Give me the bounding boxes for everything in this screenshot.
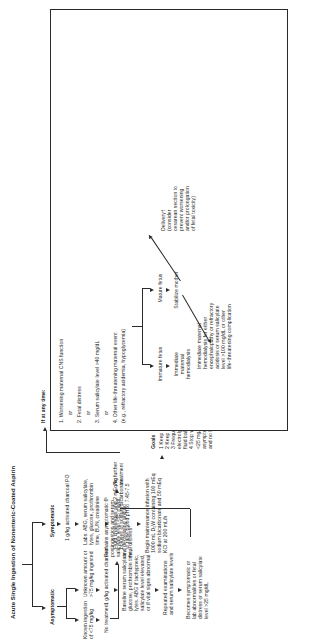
asym-no-treatment-arrow	[96, 618, 100, 622]
asym-known-low-label: Known ingestion of <75 mg/kg	[82, 595, 94, 639]
page-title: Acute Single Ingestion of Nonenteric-Coa…	[10, 419, 16, 619]
hemodialysis-detail-label: Immediate maternal hemodialysis for eith…	[196, 273, 233, 369]
immature-arrow	[150, 364, 154, 368]
mature-drop	[142, 288, 150, 289]
sym-labs-arrow	[75, 522, 79, 526]
asym-unknown-drop	[66, 588, 75, 589]
anytime-criteria-2: 2. Fetal distress	[76, 273, 82, 423]
anytime-or-1: or	[67, 403, 73, 423]
asym-branch-arrow	[42, 606, 46, 610]
asym-sub-bar	[66, 589, 67, 619]
asym-becomes-symptomatic-label: Becomes symptomatic or lab abnormalities…	[185, 537, 209, 619]
immature-fetus-label: Immature fetus	[157, 339, 163, 389]
immediate-hemo-arrow	[166, 364, 170, 368]
asym-repeated-arrow	[155, 588, 159, 592]
asym-baseline-arrow	[114, 588, 118, 592]
sym-goals-arrow	[160, 455, 164, 459]
sym-branch-arrow	[42, 522, 46, 526]
sym-maintenance-infusion-label: Begin maintenance infusion with 1000 mL …	[144, 463, 168, 553]
immature-drop	[142, 364, 150, 365]
asym-unknown-arrow	[75, 588, 79, 592]
anytime-criteria-1: 1. Worsening maternal CNS function	[58, 273, 64, 423]
immediate-maternal-hemodialysis-label: Immediate maternal hemodialysis	[173, 341, 191, 387]
asym-sub-stem	[57, 606, 66, 607]
anytime-feed-arrow	[43, 427, 47, 431]
sym-charcoal-arrow	[57, 522, 61, 526]
asym-no-treat-connector-drop	[110, 618, 118, 619]
asym-known-drop	[66, 618, 75, 619]
asym-charcoal-arrow	[96, 588, 100, 592]
sym-fluid-challenges-label: Fluid challenges and 2 mEq/kg boluses of…	[112, 467, 130, 549]
becomes-sym-to-sym-line	[190, 509, 191, 537]
stabilize-mother-arrow	[166, 288, 170, 292]
asym-charcoal-label-v: 1 g/kg activated charcoal	[103, 543, 109, 605]
asym-branch-drop	[32, 606, 42, 607]
sym-fluid-arrow	[105, 522, 109, 526]
fetus-split-bar	[142, 289, 143, 365]
fetus-split-stem	[132, 326, 142, 327]
branch-label-asymptomatic: Asymptomatic	[49, 585, 55, 629]
asym-no-treat-connector	[118, 565, 119, 619]
root-stem	[22, 564, 32, 565]
anytime-criteria-4: 4. Other life-threatening maternal event	[112, 263, 118, 423]
asym-unknown-high-label: Unknown amount or >75 mg/kg ingested	[82, 541, 94, 597]
sym-labs-label: Labs: ABG, serum salicylate, lytes, gluc…	[82, 471, 100, 545]
mature-arrow	[150, 288, 154, 292]
asym-remains-arrow	[115, 561, 119, 565]
branch-label-symptomatic: Symptomatic	[49, 499, 55, 543]
asym-known-arrow	[75, 618, 79, 622]
sym-charcoal-po-label: 1 g/kg activated charcoal PO	[64, 467, 70, 541]
anytime-feed-up	[46, 452, 120, 453]
anytime-header: If at any time:	[40, 373, 46, 423]
root-split-bar	[32, 523, 33, 607]
anytime-or-2: or	[85, 403, 91, 423]
mature-fetus-label: Mature fetus	[157, 263, 163, 313]
anytime-criteria-3: 3. Serum salicylate level >40 mg/dL	[94, 273, 100, 423]
delivery-label: Delivery† (consider cesarean section to …	[160, 135, 197, 231]
asym-becomes-sym-arrow	[178, 588, 182, 592]
anytime-feed-line	[46, 431, 47, 453]
sym-maintenance-arrow	[137, 522, 141, 526]
anytime-or-3: or	[103, 403, 109, 423]
sym-branch-drop	[32, 522, 42, 523]
anytime-criteria-4-detail: (e.g., refractory acidemia, hypoglycemia…	[120, 253, 126, 423]
